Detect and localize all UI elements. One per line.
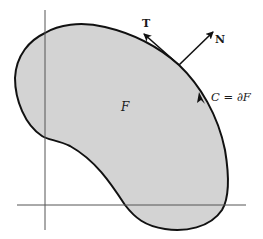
boundary-label: C = ∂F bbox=[211, 90, 252, 104]
diagram-svg: T N F C = ∂F bbox=[0, 0, 263, 239]
normal-arrow-icon bbox=[179, 32, 213, 65]
region-label: F bbox=[120, 100, 130, 114]
normal-label: N bbox=[215, 33, 225, 46]
region-f-shape bbox=[15, 24, 228, 230]
tangent-label: T bbox=[142, 17, 151, 30]
figure-canvas: T N F C = ∂F bbox=[0, 0, 263, 239]
